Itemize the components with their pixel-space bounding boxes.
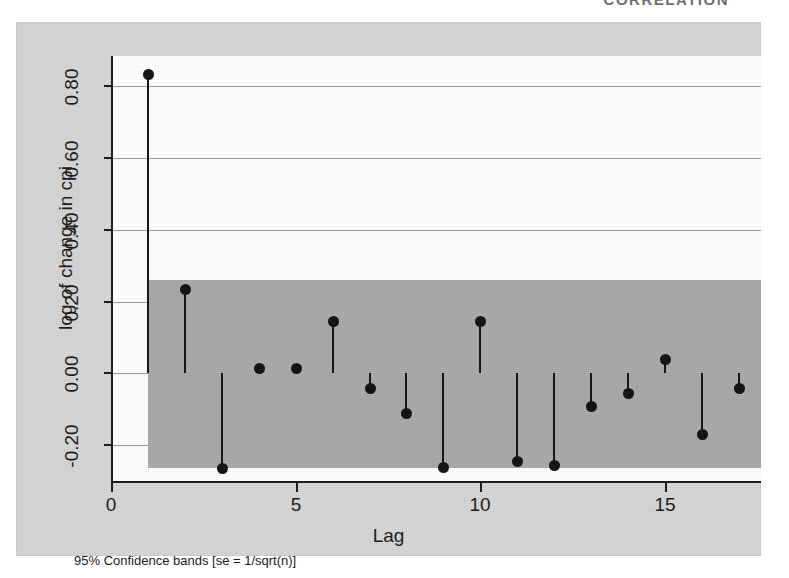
data-point-marker [291,363,302,374]
y-axis-tick-label-wrap: -0.20 [42,435,102,455]
data-point-marker [180,284,191,295]
running-head: CORRELATION [0,0,789,5]
y-axis-tick-label: 0.40 [61,201,83,261]
x-axis-title: Lag [16,525,761,547]
y-axis-tick [104,301,112,303]
stem-line [442,373,444,466]
y-axis-tick-label: 0.60 [61,129,83,189]
y-axis-tick [104,157,112,159]
figure-page: CORRELATION log of change in cpi Lag 95%… [0,0,789,578]
stem-line [701,373,703,434]
y-axis-tick-label-wrap: 0.40 [42,220,102,240]
y-axis-tick-label: -0.20 [61,416,83,476]
y-axis-tick [104,372,112,374]
figure-plate: log of change in cpi Lag 95% Confidence … [16,22,761,556]
y-axis-tick [104,85,112,87]
stem-line [184,289,186,373]
confidence-band-note: 95% Confidence bands [se = 1/sqrt(n)] [74,553,296,568]
y-axis-tick [104,444,112,446]
stem-line [553,373,555,464]
data-point-marker [328,316,339,327]
y-axis-tick-label-wrap: 0.80 [42,76,102,96]
x-axis-tick [480,483,482,492]
gridline [111,86,761,87]
y-axis-tick-label: 0.20 [61,273,83,333]
data-point-marker [438,462,449,473]
y-axis-tick-label-wrap: 0.20 [42,292,102,312]
gridline [111,230,761,231]
data-point-marker [549,460,560,471]
y-axis-tick-label-wrap: 0.60 [42,148,102,168]
stem-line [221,373,223,468]
data-point-marker [660,354,671,365]
data-point-marker [365,383,376,394]
gridline [111,158,761,159]
data-point-marker [734,383,745,394]
stem-line [516,373,518,461]
data-point-marker [254,363,265,374]
x-axis-tick [111,483,113,492]
stem-line [479,321,481,373]
x-axis-line [111,481,761,483]
x-axis-tick [296,483,298,492]
data-point-marker [586,401,597,412]
x-axis-tick-label: 5 [266,494,326,516]
y-axis-tick-label: 0.00 [61,344,83,404]
data-point-marker [143,69,154,80]
x-axis-tick-label: 10 [450,494,510,516]
y-axis-tick [104,229,112,231]
y-axis-tick-label-wrap: 0.00 [42,363,102,383]
stem-line [147,74,149,373]
stem-line [405,373,407,412]
x-axis-tick-label: 15 [635,494,695,516]
stem-line [332,321,334,373]
x-axis-tick-label: 0 [81,494,141,516]
y-axis-line [111,56,113,483]
confidence-band [148,280,761,468]
x-axis-tick [665,483,667,492]
y-axis-tick-label: 0.80 [61,57,83,117]
